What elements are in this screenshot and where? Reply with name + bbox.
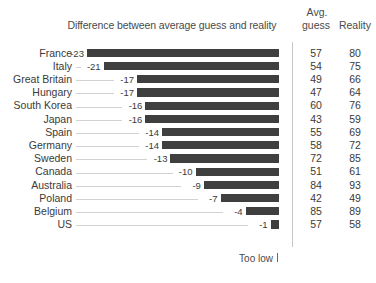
bar-value-label: -1 [250, 218, 268, 231]
column-header-avg-guess: guess [298, 19, 334, 31]
category-label: Germany [0, 139, 72, 152]
leader-line [76, 120, 122, 121]
leader-line [76, 80, 114, 81]
bar-value-label: -4 [225, 205, 243, 218]
bar [170, 154, 279, 162]
avg-guess-value: 55 [298, 126, 334, 139]
reality-value: 75 [336, 60, 374, 73]
category-label: Japan [0, 113, 72, 126]
bar [221, 194, 279, 202]
table-row: Belgium-48589 [0, 205, 376, 218]
bar-value-label: -7 [200, 192, 218, 205]
table-row: Spain-145569 [0, 126, 376, 139]
bar [137, 88, 279, 96]
reality-value: 93 [336, 179, 374, 192]
category-label: US [0, 218, 72, 231]
reality-value: 89 [336, 205, 374, 218]
avg-guess-value: 84 [298, 179, 334, 192]
bar [162, 128, 279, 136]
column-header-reality: Reality [336, 19, 374, 31]
table-row: Poland-74249 [0, 192, 376, 205]
chart-container: Difference between average guess and rea… [0, 0, 376, 283]
table-row: Great Britain-174966 [0, 73, 376, 86]
bar-value-label: -9 [183, 179, 201, 192]
category-label: Hungary [0, 86, 72, 99]
table-row: France-235780 [0, 47, 376, 60]
avg-guess-value: 51 [298, 165, 334, 178]
avg-guess-value: 58 [298, 139, 334, 152]
leader-line [76, 146, 139, 147]
bar-value-label: -14 [141, 139, 159, 152]
reality-value: 58 [336, 218, 374, 231]
bar [145, 102, 279, 110]
avg-guess-value: 54 [298, 60, 334, 73]
reality-value: 64 [336, 86, 374, 99]
category-label: Italy [0, 60, 72, 73]
avg-guess-value: 47 [298, 86, 334, 99]
axis-tick-icon [277, 253, 278, 262]
bar [162, 141, 279, 149]
table-row: Italy-215475 [0, 60, 376, 73]
category-label: Belgium [0, 205, 72, 218]
avg-guess-value: 42 [298, 192, 334, 205]
bar-value-label: -16 [124, 99, 142, 112]
reality-value: 72 [336, 139, 374, 152]
table-row: US-15758 [0, 218, 376, 231]
reality-value: 66 [336, 73, 374, 86]
leader-line [76, 186, 181, 187]
table-row: Sweden-137285 [0, 152, 376, 165]
bar [145, 115, 279, 123]
bar [204, 181, 279, 189]
avg-guess-value: 85 [298, 205, 334, 218]
bar-value-label: -23 [66, 47, 84, 60]
table-row: Japan-164359 [0, 113, 376, 126]
category-label: Sweden [0, 152, 72, 165]
bar-value-label: -16 [124, 113, 142, 126]
leader-line [76, 93, 114, 94]
leader-line [76, 173, 173, 174]
table-row: South Korea-166076 [0, 99, 376, 112]
bar [271, 220, 279, 228]
avg-guess-value: 57 [298, 218, 334, 231]
leader-line [76, 225, 248, 226]
bar-value-label: -10 [175, 165, 193, 178]
bar [196, 168, 280, 176]
reality-value: 61 [336, 165, 374, 178]
avg-guess-value: 43 [298, 113, 334, 126]
bar-value-label: -14 [141, 126, 159, 139]
table-row: Australia-98493 [0, 179, 376, 192]
table-row: Canada-105161 [0, 165, 376, 178]
reality-value: 85 [336, 152, 374, 165]
bar-value-label: -13 [149, 152, 167, 165]
too-low-annotation: Too low [223, 253, 273, 264]
bar [137, 75, 279, 83]
bar [87, 49, 279, 57]
leader-line [76, 212, 223, 213]
category-label: Poland [0, 192, 72, 205]
category-label: South Korea [0, 99, 72, 112]
avg-guess-value: 49 [298, 73, 334, 86]
leader-line [76, 67, 81, 68]
category-label: Canada [0, 165, 72, 178]
reality-value: 80 [336, 47, 374, 60]
reality-value: 69 [336, 126, 374, 139]
table-row: Germany-145872 [0, 139, 376, 152]
bar-value-label: -21 [83, 60, 101, 73]
bar-value-label: -17 [116, 86, 134, 99]
leader-line [76, 199, 198, 200]
leader-line [76, 107, 122, 108]
chart-title: Difference between average guess and rea… [62, 19, 282, 31]
avg-guess-value: 72 [298, 152, 334, 165]
category-label: Great Britain [0, 73, 72, 86]
avg-guess-value: 60 [298, 99, 334, 112]
table-row: Hungary-174764 [0, 86, 376, 99]
bar [246, 207, 279, 215]
leader-line [76, 159, 147, 160]
bar [104, 62, 279, 70]
reality-value: 59 [336, 113, 374, 126]
reality-value: 76 [336, 99, 374, 112]
column-header-avg-line1: Avg. [300, 6, 334, 18]
category-label: Australia [0, 179, 72, 192]
avg-guess-value: 57 [298, 47, 334, 60]
leader-line [76, 133, 139, 134]
